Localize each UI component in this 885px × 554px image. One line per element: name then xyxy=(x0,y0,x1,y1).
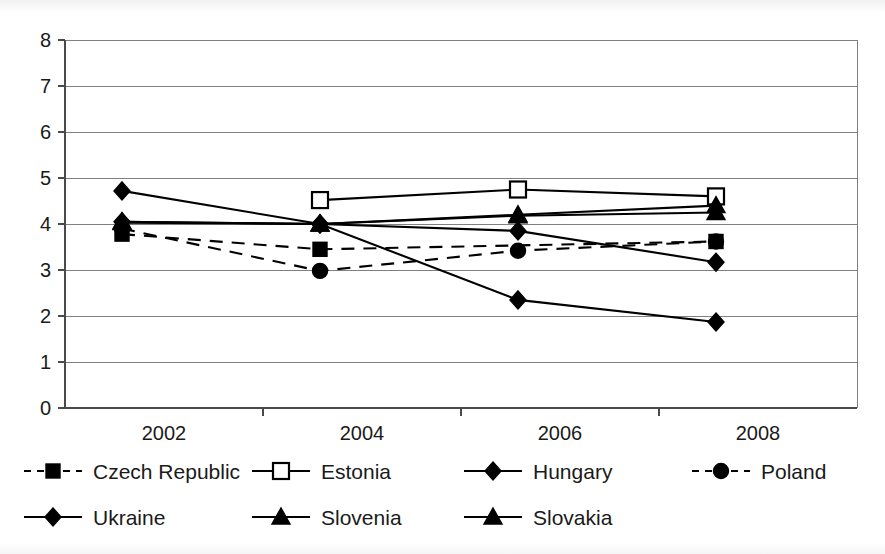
legend-marker-sample xyxy=(462,459,524,483)
y-axis-tick-label: 1 xyxy=(40,351,51,373)
x-axis-tick-labels: 2002200420062008 xyxy=(142,422,781,440)
data-point-marker xyxy=(511,243,526,258)
line-chart-svg: 012345678 2002200420062008 xyxy=(0,0,885,440)
data-point-marker xyxy=(313,242,327,256)
legend-item-label: Ukraine xyxy=(93,507,165,528)
data-series-group xyxy=(113,182,725,331)
data-point-marker xyxy=(510,291,526,309)
legend-item-label: Hungary xyxy=(533,461,612,482)
legend-marker-sample xyxy=(250,505,312,529)
data-point-marker xyxy=(312,192,328,208)
y-axis-tick-label: 8 xyxy=(40,29,51,51)
data-series xyxy=(312,182,724,209)
legend-item-label: Estonia xyxy=(321,461,391,482)
legend-marker-sample xyxy=(690,459,752,483)
y-axis-tick-label: 5 xyxy=(40,167,51,189)
y-axis-tick-labels: 012345678 xyxy=(40,29,51,419)
y-axis-tick-label: 2 xyxy=(40,305,51,327)
x-axis-tick-label: 2008 xyxy=(736,422,781,440)
data-point-marker xyxy=(709,234,724,249)
legend-item-slovenia[interactable]: Slovenia xyxy=(250,494,402,540)
data-point-marker xyxy=(313,263,328,278)
data-series xyxy=(115,227,723,256)
data-point-marker xyxy=(45,508,61,526)
y-axis-tick-label: 6 xyxy=(40,121,51,143)
x-axis-tick-marks xyxy=(263,408,659,416)
y-axis-tick-marks xyxy=(58,40,65,408)
legend-item-slovakia[interactable]: Slovakia xyxy=(462,494,612,540)
y-axis-tick-label: 4 xyxy=(40,213,51,235)
legend-item-estonia[interactable]: Estonia xyxy=(250,448,391,494)
legend-item-czech-republic[interactable]: Czech Republic xyxy=(22,448,240,494)
legend-row: Czech RepublicEstoniaHungaryPoland xyxy=(0,448,885,494)
legend-item-label: Slovenia xyxy=(321,507,402,528)
data-series xyxy=(114,182,724,331)
x-axis-tick-label: 2004 xyxy=(340,422,385,440)
data-point-marker xyxy=(46,464,60,478)
legend-item-label: Czech Republic xyxy=(93,461,240,482)
data-point-marker xyxy=(485,462,501,480)
x-axis-tick-label: 2002 xyxy=(142,422,187,440)
data-point-marker xyxy=(714,464,729,479)
legend-item-label: Slovakia xyxy=(533,507,612,528)
legend-item-hungary[interactable]: Hungary xyxy=(462,448,612,494)
chart-plot-area: 012345678 2002200420062008 xyxy=(0,0,885,440)
data-point-marker xyxy=(510,182,526,198)
chart-legend: Czech RepublicEstoniaHungaryPoland Ukrai… xyxy=(0,448,885,554)
data-point-marker xyxy=(708,253,724,271)
y-axis-tick-label: 7 xyxy=(40,75,51,97)
legend-item-ukraine[interactable]: Ukraine xyxy=(22,494,165,540)
data-point-marker xyxy=(273,463,289,479)
chart-figure: 012345678 2002200420062008 Czech Republi… xyxy=(0,0,885,554)
legend-item-poland[interactable]: Poland xyxy=(690,448,826,494)
legend-marker-sample xyxy=(22,505,84,529)
legend-marker-sample xyxy=(462,505,524,529)
data-point-marker xyxy=(510,222,526,240)
legend-marker-sample xyxy=(22,459,84,483)
series-line xyxy=(122,213,716,225)
legend-marker-sample xyxy=(250,459,312,483)
x-axis-tick-label: 2006 xyxy=(538,422,583,440)
data-point-marker xyxy=(114,182,130,200)
y-axis-tick-label: 3 xyxy=(40,259,51,281)
legend-row: UkraineSloveniaSlovakia xyxy=(0,494,885,540)
y-axis-tick-label: 0 xyxy=(40,397,51,419)
series-line xyxy=(122,229,716,271)
legend-item-label: Poland xyxy=(761,461,826,482)
